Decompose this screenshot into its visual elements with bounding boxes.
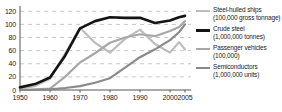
legend-color-swatch (196, 29, 210, 32)
legend-item-unit: (1,000,000 units) (213, 71, 259, 79)
y-axis-tick-label: 40 (0, 60, 16, 67)
x-axis-tick-label: 1980 (103, 94, 118, 101)
legend-item-label: Steel-hulled ships (213, 6, 280, 14)
legend-item: Steel-hulled ships(100,000 gross tonnage… (196, 6, 282, 22)
y-axis-tick-label: 80 (0, 34, 16, 41)
y-axis-tick-label: 0 (0, 87, 16, 94)
y-axis-tick-label: 60 (0, 47, 16, 54)
legend-item-label: Crude steel (213, 25, 265, 33)
x-axis-tick-label: 1990 (133, 94, 148, 101)
x-axis-tick-label: 1950 (13, 94, 28, 101)
legend-color-swatch (196, 10, 210, 12)
x-axis-tick-label: 2000 (163, 94, 178, 101)
legend-item-unit: (1,000,000 tonnes) (213, 33, 265, 41)
legend-color-swatch (196, 48, 210, 50)
y-axis-tick-label: 120 (0, 8, 16, 15)
chart-legend: Steel-hulled ships(100,000 gross tonnage… (196, 6, 282, 82)
legend-item: Semiconductors(1,000,000 units) (196, 63, 282, 79)
y-axis-tick-label: 20 (0, 73, 16, 80)
x-axis-tick-label: 2005 (178, 94, 193, 101)
legend-item: Crude steel(1,000,000 tonnes) (196, 25, 282, 41)
legend-item-label: Semiconductors (213, 63, 259, 71)
chart-container: 020406080100120 195019601970198019902000… (0, 0, 282, 112)
y-axis-tick-label: 100 (0, 21, 16, 28)
legend-item-label: Passenger vehicles (213, 44, 267, 52)
x-axis-tick-label: 1960 (43, 94, 58, 101)
legend-color-swatch (196, 67, 210, 69)
legend-item-unit: (100,000) (213, 52, 267, 60)
x-axis-tick-label: 1970 (73, 94, 88, 101)
legend-item: Passenger vehicles(100,000) (196, 44, 282, 60)
legend-item-unit: (100,000 gross tonnage) (213, 14, 280, 22)
